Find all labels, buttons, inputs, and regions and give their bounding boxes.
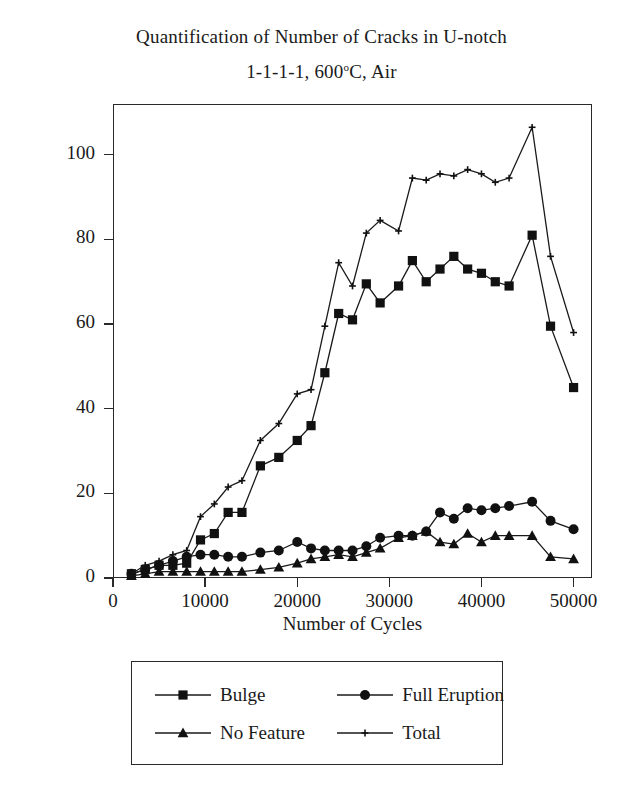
legend-label: Bulge [220,684,265,706]
y-tick-mark [104,408,113,409]
plus-marker [570,329,577,336]
figure-root: Quantification of Number of Cracks in U-… [0,0,643,796]
legend-item-bulge[interactable]: Bulge [132,684,314,706]
circle-marker [274,545,284,555]
square-marker [408,256,417,265]
y-tick-mark [104,493,113,494]
y-tick-label: 80 [39,226,95,248]
x-tick-label: 30000 [339,590,439,612]
plus-marker [335,259,342,266]
square-marker [237,508,246,517]
plus-marker [362,730,369,737]
circle-marker [223,552,233,562]
circle-marker [360,690,370,700]
legend-marker-square-icon [154,687,212,703]
chart-title: Quantification of Number of Cracks in U-… [0,22,643,87]
x-axis-label: Number of Cycles [113,613,592,635]
square-marker [224,508,233,517]
square-marker [320,368,329,377]
chart-title-line-2-pre: 1-1-1-1, 600 [246,61,343,82]
chart-title-line-2-post: C, Air [349,61,397,82]
legend-marker-triangle-icon [154,725,212,741]
square-marker [334,309,343,318]
plus-marker [464,166,471,173]
legend-marker-plus-icon [336,725,394,741]
x-tick-label: 20000 [247,590,347,612]
square-marker [210,529,219,538]
legend-item-full-eruption[interactable]: Full Eruption [314,684,504,706]
y-tick-mark [104,239,113,240]
x-tick-label: 40000 [431,590,531,612]
circle-marker [209,550,219,560]
x-tick-mark [297,578,298,587]
square-marker [256,461,265,470]
legend-label: Total [402,722,441,744]
x-tick-mark [204,578,205,587]
circle-marker [546,516,556,526]
x-tick-label: 0 [63,590,163,612]
chart-title-line-1: Quantification of Number of Cracks in U-… [0,22,643,52]
circle-marker [569,524,579,534]
y-tick-label: 20 [39,480,95,502]
y-tick-label: 60 [39,311,95,333]
plus-marker [308,386,315,393]
circle-marker [476,505,486,515]
square-marker [435,264,444,273]
circle-marker [375,533,385,543]
y-tick-mark [104,154,113,155]
legend-marker-circle-icon [336,687,394,703]
series-layer [113,104,592,578]
square-marker [449,252,458,261]
x-tick-mark [573,578,574,587]
x-tick-mark [112,578,113,587]
square-marker [394,281,403,290]
plus-marker [239,477,246,484]
x-tick-label: 10000 [155,590,255,612]
square-marker [196,535,205,544]
square-marker [306,421,315,430]
legend-label: Full Eruption [402,684,504,706]
square-marker [463,264,472,273]
triangle-marker [375,543,386,553]
circle-marker [490,503,500,513]
square-marker [569,383,578,392]
legend-item-no-feature[interactable]: No Feature [132,722,314,744]
plus-marker [395,228,402,235]
circle-marker [435,507,445,517]
triangle-marker [462,528,473,538]
plus-marker [349,283,356,290]
y-tick-label: 100 [39,142,95,164]
circle-marker [292,537,302,547]
circle-marker [237,552,247,562]
square-marker [362,279,371,288]
plus-marker [506,175,513,182]
plus-marker [450,173,457,180]
y-tick-mark [104,323,113,324]
circle-marker [463,503,473,513]
chart-title-line-2: 1-1-1-1, 600oC, Air [0,52,643,87]
x-tick-mark [389,578,390,587]
circle-marker [449,514,459,524]
circle-marker [196,550,206,560]
circle-marker [306,543,316,553]
x-tick-mark [481,578,482,587]
square-marker [348,315,357,324]
plus-marker [409,175,416,182]
square-marker [274,453,283,462]
square-marker [528,231,537,240]
plot-area [113,104,592,578]
plus-marker [492,179,499,186]
legend-item-total[interactable]: Total [314,722,504,744]
y-tick-label: 0 [39,565,95,587]
plus-marker [529,124,536,131]
legend-label: No Feature [220,722,305,744]
square-marker [422,277,431,286]
plus-marker [437,170,444,177]
y-tick-label: 40 [39,396,95,418]
legend: BulgeFull EruptionNo FeatureTotal [131,661,503,765]
square-marker [546,322,555,331]
triangle-marker [476,537,487,547]
triangle-marker [435,537,446,547]
circle-marker [527,497,537,507]
circle-marker [504,501,514,511]
